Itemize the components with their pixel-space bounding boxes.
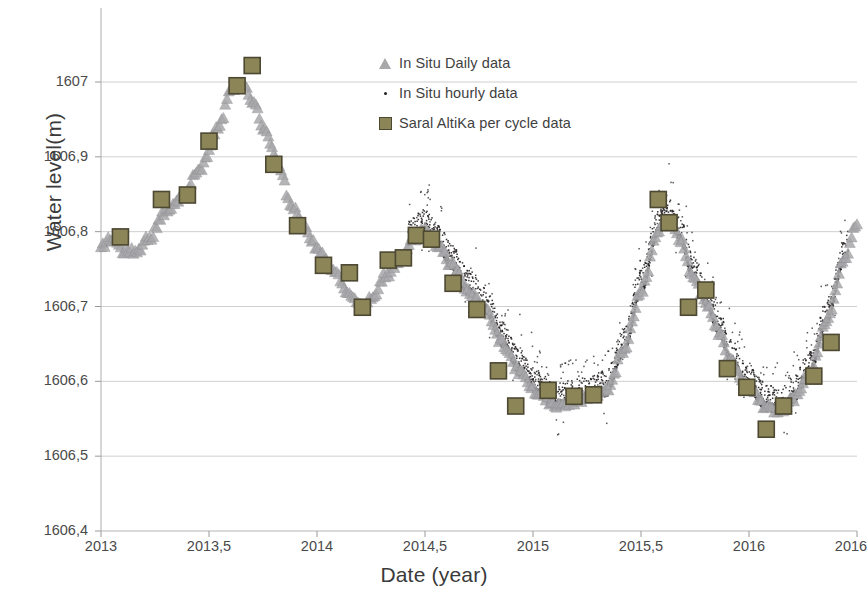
legend-item-hourly: In Situ hourly data (378, 78, 571, 108)
y-tick-label: 1606,4 (14, 522, 88, 538)
x-tick-label: 2016 (704, 538, 794, 554)
x-tick-label: 2014,5 (380, 538, 470, 554)
x-tick-label: 2015 (488, 538, 578, 554)
y-tick-label: 1606,6 (14, 372, 88, 388)
legend-label-daily: In Situ Daily data (399, 55, 510, 71)
legend-label-saral: Saral AltiKa per cycle data (399, 115, 571, 131)
y-tick-label: 1606,9 (14, 148, 88, 164)
x-tick-label: 2016,5 (812, 538, 868, 554)
x-tick-label: 2015,5 (596, 538, 686, 554)
y-tick-label: 1607 (14, 73, 88, 89)
dot-marker-icon (378, 92, 392, 95)
x-tick-label: 2013 (56, 538, 146, 554)
chart-legend: In Situ Daily data In Situ hourly data S… (378, 48, 571, 138)
square-marker-icon (378, 117, 392, 130)
y-axis-title: Water level(m) (42, 72, 66, 292)
legend-label-hourly: In Situ hourly data (399, 85, 518, 101)
legend-item-saral: Saral AltiKa per cycle data (378, 108, 571, 138)
x-tick-label: 2013,5 (164, 538, 254, 554)
legend-item-daily: In Situ Daily data (378, 48, 571, 78)
y-tick-label: 1606,8 (14, 223, 88, 239)
x-tick-label: 2014 (272, 538, 362, 554)
triangle-marker-icon (378, 58, 392, 69)
x-axis-title: Date (year) (0, 563, 868, 587)
y-tick-label: 1606,5 (14, 447, 88, 463)
water-level-chart: Water level(m) Date (year) 1606,41606,51… (0, 0, 868, 597)
y-tick-label: 1606,7 (14, 298, 88, 314)
